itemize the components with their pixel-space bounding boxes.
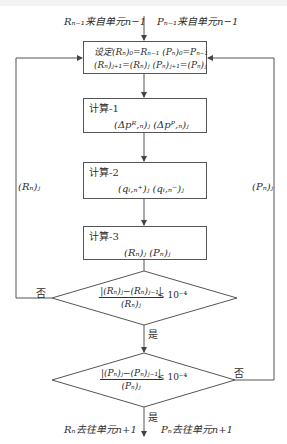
input-left-label: Rₙ₋₁来自单元n−1	[64, 16, 146, 27]
right-loop-label: (Pₙ)ⱼ	[252, 181, 273, 192]
calc-1-vars: (Δpᴿ,ₙ)ⱼ (Δpᴾ,ₙ)ⱼ	[114, 119, 189, 130]
output-right-label: Pₙ去往单元n+1	[161, 424, 233, 435]
decision-1-denominator: (Rₙ)ⱼ	[98, 298, 164, 309]
decision-1-numerator: |(Rₙ)ⱼ−(Rₙ)ⱼ₋₁|	[99, 286, 163, 298]
calc-2-box: 计算-2 (qᵢ,ₙ⁺)ⱼ (qᵢ,ₙ⁻)ⱼ	[83, 162, 207, 199]
output-left-label: Rₙ去往单元n+1	[64, 424, 137, 435]
calc-3-title: 计算-3	[89, 231, 119, 242]
init-line-1: 设定(Rₙ)₀=Rₙ₋₁ (Pₙ)₀=Pₙ₋₁	[94, 47, 208, 58]
decision-1-fraction: |(Rₙ)ⱼ−(Rₙ)ⱼ₋₁| (Rₙ)ⱼ	[98, 286, 164, 309]
decision-1-no-label: 否	[36, 288, 46, 299]
decision-2-condition: ≤ 10⁻⁴	[157, 372, 187, 382]
decision-2-no-label: 否	[234, 368, 244, 379]
decision-2-fraction: |(Pₙ)ⱼ−(Pₙ)ⱼ₋₁| (Pₙ)ⱼ	[98, 368, 164, 391]
calc-1-box: 计算-1 (Δpᴿ,ₙ)ⱼ (Δpᴾ,ₙ)ⱼ	[83, 98, 207, 133]
calc-2-title: 计算-2	[89, 167, 119, 178]
left-loop-label: (Rₙ)ⱼ	[18, 181, 40, 192]
calc-3-box: 计算-3 (Rₙ)ⱼ (Pₙ)ⱼ	[83, 226, 207, 260]
init-box: 设定(Rₙ)₀=Rₙ₋₁ (Pₙ)₀=Pₙ₋₁ (Rₙ)ⱼ₊₁=(Rₙ)ⱼ (P…	[83, 41, 207, 74]
input-right-label: Pₙ₋₁来自单元n−1	[157, 16, 238, 27]
decision-1-condition: ≤ 10⁻⁴	[157, 290, 187, 300]
decision-2-yes-label: 是	[148, 412, 158, 423]
decision-2-denominator: (Pₙ)ⱼ	[98, 380, 164, 391]
decision-2-numerator: |(Pₙ)ⱼ−(Pₙ)ⱼ₋₁|	[100, 368, 162, 380]
calc-1-title: 计算-1	[89, 103, 119, 114]
decision-1-yes-label: 是	[148, 329, 158, 340]
calc-2-vars: (qᵢ,ₙ⁺)ⱼ (qᵢ,ₙ⁻)ⱼ	[118, 183, 184, 194]
init-line-2: (Rₙ)ⱼ₊₁=(Rₙ)ⱼ (Pₙ)ⱼ₊₁=(Pₙ)ⱼ	[94, 60, 207, 71]
calc-3-vars: (Rₙ)ⱼ (Pₙ)ⱼ	[124, 247, 170, 258]
